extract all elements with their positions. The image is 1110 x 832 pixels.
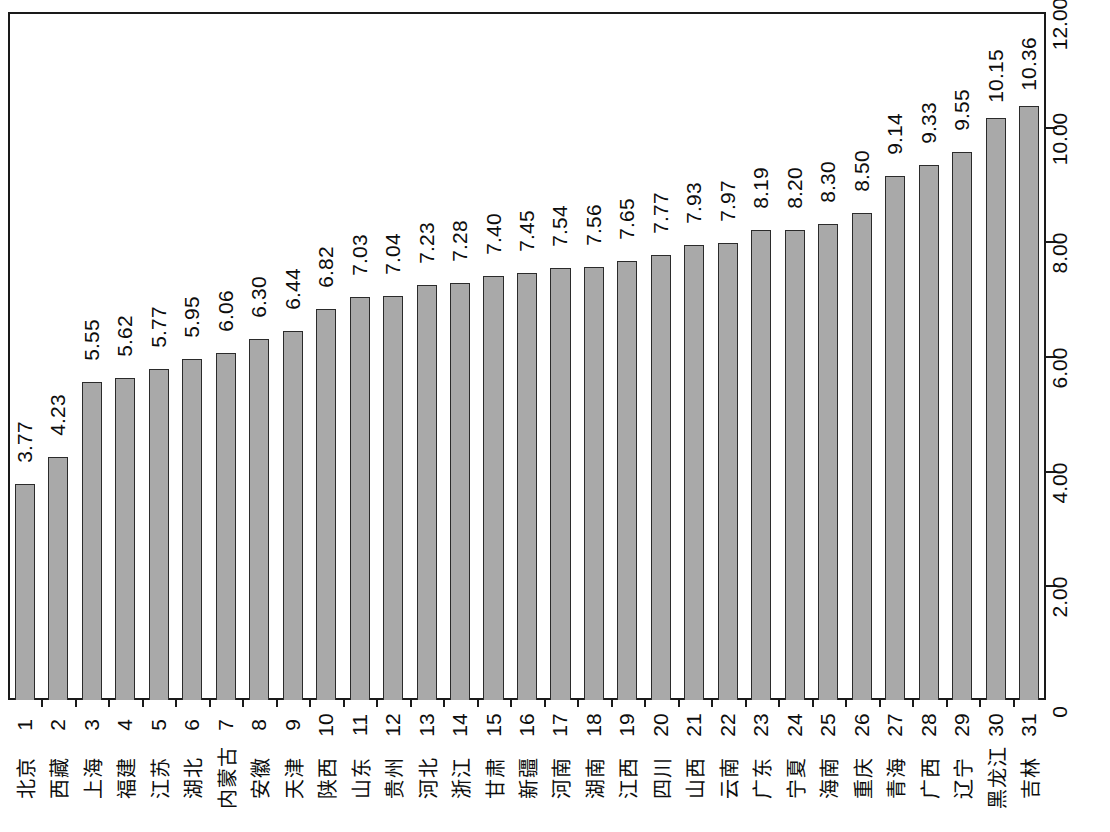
x-axis-tick: [276, 700, 278, 707]
x-axis-category-label: 天津: [278, 757, 307, 799]
x-axis-label-slot: 17河南: [544, 707, 577, 832]
x-axis-category-label: 江苏: [144, 757, 173, 799]
x-axis-category-label: 河南: [546, 757, 575, 799]
x-axis-label-slot: 26重庆: [845, 707, 878, 832]
x-axis-label-slot: 19江西: [611, 707, 644, 832]
x-axis-tick: [209, 700, 211, 707]
plot-frame: [8, 12, 1046, 700]
x-axis-rank-label: 20: [649, 713, 673, 736]
x-axis-tick: [912, 700, 914, 707]
x-axis-category-label: 贵州: [379, 757, 408, 799]
x-axis-rank-label: 19: [615, 713, 639, 736]
x-axis-rank-label: 2: [46, 719, 70, 731]
x-axis-label-slot: 21山西: [678, 707, 711, 832]
x-axis-rank-label: 18: [582, 713, 606, 736]
x-axis-category-label: 辽宁: [948, 757, 977, 799]
x-axis-tick: [343, 700, 345, 707]
x-axis-category-label: 内蒙古: [211, 746, 240, 809]
y-axis-tick-label: 0: [1048, 706, 1072, 718]
y-axis-tick-label: 2.00: [1048, 577, 1072, 618]
x-axis-label-slot: 3上海: [75, 707, 108, 832]
x-axis-label-slot: 4福建: [108, 707, 141, 832]
x-axis-label-slot: 8安徽: [242, 707, 275, 832]
x-axis-tick: [410, 700, 412, 707]
x-axis-category-label: 湖北: [178, 757, 207, 799]
x-axis-label-slot: 28广西: [912, 707, 945, 832]
x-axis-tick: [812, 700, 814, 707]
x-axis-label-slot: 7内蒙古: [209, 707, 242, 832]
x-axis-rank-label: 8: [247, 719, 271, 731]
x-axis-label-slot: 5江苏: [142, 707, 175, 832]
x-axis-rank-label: 17: [548, 713, 572, 736]
x-axis-tick: [979, 700, 981, 707]
x-axis-category-label: 新疆: [512, 757, 541, 799]
x-axis-category-label: 北京: [10, 757, 39, 799]
y-axis-tick-label: 8.00: [1048, 233, 1072, 274]
x-axis-ticks: [8, 700, 1046, 707]
x-axis-tick: [477, 700, 479, 707]
x-axis-label-slot: 14浙江: [443, 707, 476, 832]
x-axis-rank-label: 13: [415, 713, 439, 736]
x-axis-tick: [745, 700, 747, 707]
y-axis-tick-label: 4.00: [1048, 462, 1072, 503]
x-axis-rank-label: 4: [113, 719, 137, 731]
x-axis-tick: [644, 700, 646, 707]
x-axis-tick: [443, 700, 445, 707]
x-axis-tick: [946, 700, 948, 707]
x-axis-rank-label: 14: [448, 713, 472, 736]
x-axis-category-label: 河北: [412, 757, 441, 799]
x-axis-label-slot: 11山东: [343, 707, 376, 832]
x-axis-label-slot: 1北京: [8, 707, 41, 832]
x-axis-category-label: 山东: [345, 757, 374, 799]
x-axis-label-slot: 23广东: [745, 707, 778, 832]
x-axis-tick: [75, 700, 77, 707]
x-axis-tick: [711, 700, 713, 707]
x-axis-tick: [242, 700, 244, 707]
x-axis-tick: [309, 700, 311, 707]
x-axis-rank-label: 12: [381, 713, 405, 736]
x-axis-label-slot: 29辽宁: [946, 707, 979, 832]
x-axis-category-label: 西藏: [44, 757, 73, 799]
x-axis-label-slot: 6湖北: [175, 707, 208, 832]
x-axis-rank-label: 15: [482, 713, 506, 736]
x-axis-category-label: 浙江: [446, 757, 475, 799]
x-axis-label-slot: 13河北: [410, 707, 443, 832]
x-axis-label-slot: 22云南: [711, 707, 744, 832]
x-axis-label-slot: 18湖南: [577, 707, 610, 832]
x-axis-category-label: 黑龙江: [981, 746, 1010, 809]
x-axis-rank-label: 21: [682, 713, 706, 736]
x-axis-label-slot: 16新疆: [510, 707, 543, 832]
x-axis-category-label: 江西: [613, 757, 642, 799]
x-axis-rank-label: 23: [749, 713, 773, 736]
x-axis-rank-label: 24: [783, 713, 807, 736]
x-axis-labels: 1北京2西藏3上海4福建5江苏6湖北7内蒙古8安徽9天津10陕西11山东12贵州…: [8, 707, 1046, 832]
x-axis-tick: [778, 700, 780, 707]
x-axis-category-label: 福建: [111, 757, 140, 799]
x-axis-label-slot: 9天津: [276, 707, 309, 832]
x-axis-rank-label: 3: [80, 719, 104, 731]
x-axis-category-label: 陕西: [312, 757, 341, 799]
x-axis-rank-label: 5: [147, 719, 171, 731]
x-axis-label-slot: 15甘肃: [477, 707, 510, 832]
x-axis-category-label: 四川: [646, 757, 675, 799]
x-axis-tick: [1013, 700, 1015, 707]
x-axis-rank-label: 28: [917, 713, 941, 736]
x-axis-category-label: 宁夏: [780, 757, 809, 799]
x-axis-label-slot: 25海南: [812, 707, 845, 832]
x-axis-rank-label: 29: [950, 713, 974, 736]
x-axis-tick: [845, 700, 847, 707]
x-axis-category-label: 山西: [680, 757, 709, 799]
x-axis-rank-label: 1: [13, 719, 37, 731]
x-axis-tick: [544, 700, 546, 707]
x-axis-rank-label: 10: [314, 713, 338, 736]
x-axis-label-slot: 24宁夏: [778, 707, 811, 832]
y-axis-tick-label: 10.00: [1048, 112, 1072, 165]
x-axis-tick: [175, 700, 177, 707]
x-axis-label-slot: 31吉林: [1013, 707, 1046, 832]
x-axis-tick: [142, 700, 144, 707]
x-axis-rank-label: 25: [816, 713, 840, 736]
x-axis-rank-label: 31: [1017, 713, 1041, 736]
x-axis-tick: [577, 700, 579, 707]
x-axis-rank-label: 7: [214, 719, 238, 731]
x-axis-category-label: 甘肃: [479, 757, 508, 799]
